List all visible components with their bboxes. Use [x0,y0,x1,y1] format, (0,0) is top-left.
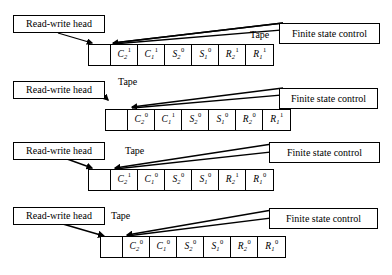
symbol-superscript: 0 [252,111,255,118]
tape-configuration-row: Read-write head Tape Finite state contro… [0,200,392,275]
tape-strip-row-3: C21C10S20S10R21R10 [88,169,274,191]
symbol-superscript: 0 [263,171,266,178]
symbol-base: C [118,49,124,59]
symbol-subscript: 1 [151,53,154,60]
symbol-subscript: 1 [276,118,279,125]
tape-cell-symbol: S20 [172,50,183,60]
tape-cell: C21 [111,170,138,190]
tape-strip-row-2: C20C11S20S10R20R11 [105,109,291,131]
symbol-superscript: 0 [208,171,211,178]
symbol-superscript: 0 [181,171,184,178]
symbol-subscript: 1 [151,178,154,185]
read-write-head-box-row-4: Read-write head [13,207,105,225]
read-write-head-label: Read-write head [26,85,92,95]
symbol-superscript: 0 [193,238,196,245]
symbol-superscript: 1 [280,111,283,118]
symbol-subscript: 1 [259,178,262,185]
symbol-subscript: 2 [136,245,139,252]
symbol-superscript: 0 [275,238,278,245]
tape-cell-symbol: R10 [265,242,277,252]
tape-label-row-4: Tape [111,211,130,221]
symbol-superscript: 0 [181,46,184,53]
turing-tape-figure: Read-write head Tape Finite state contro… [0,0,392,275]
symbol-base: C [162,114,168,124]
tape-cell-blank [101,237,123,257]
tape-cell: R21 [219,45,246,65]
symbol-superscript: 0 [167,238,170,245]
tape-cell-symbol: R11 [253,50,265,60]
tape-cell: C11 [138,45,165,65]
tape-cell-symbol: C20 [135,115,148,125]
symbol-superscript: 1 [172,111,175,118]
tape-cell-symbol: S20 [172,175,183,185]
tape-cell: C11 [155,110,182,130]
symbol-subscript: 2 [194,118,197,125]
read-write-head-label: Read-write head [26,19,92,29]
tape-strip-row-4: C20C10S20S10R20R10 [100,236,286,258]
tape-cell: R20 [236,110,263,130]
symbol-superscript: 0 [145,111,148,118]
tape-cell: R20 [231,237,258,257]
tape-cell: C20 [123,237,150,257]
symbol-superscript: 0 [140,238,143,245]
tape-cell: S20 [177,237,204,257]
tape-configuration-row: Read-write head Tape Finite state contro… [0,0,392,70]
tape-label-row-2: Tape [118,77,137,87]
symbol-superscript: 1 [235,46,238,53]
tape-label-row-3: Tape [125,146,144,156]
tape-cell-symbol: C20 [130,242,143,252]
symbol-superscript: 1 [128,171,131,178]
symbol-subscript: 1 [221,118,224,125]
read-write-head-box-row-3: Read-write head [13,142,105,160]
symbol-base: C [145,49,151,59]
symbol-superscript: 0 [208,46,211,53]
tape-cell-blank [106,110,128,130]
tape-cell-symbol: C21 [118,50,131,60]
tape-cell: S20 [165,45,192,65]
finite-state-control-box-row-4: Finite state control [269,208,378,229]
tape-cell-symbol: R20 [238,242,250,252]
symbol-base: C [145,174,151,184]
tape-cell: S20 [182,110,209,130]
tape-cell-symbol: S10 [216,115,227,125]
symbol-subscript: 2 [232,53,235,60]
tape-cell-symbol: C11 [145,50,158,60]
tape-cell: S20 [165,170,192,190]
symbol-subscript: 2 [244,245,247,252]
tape-cell: R21 [219,170,246,190]
tape-cell-symbol: C10 [157,242,170,252]
tape-cell-symbol: C11 [162,115,175,125]
tape-cell: R11 [246,45,273,65]
tape-cell: C10 [150,237,177,257]
symbol-base: C [118,174,124,184]
tape-cell-symbol: S10 [199,175,210,185]
symbol-subscript: 2 [177,53,180,60]
tape-cell-symbol: S20 [184,242,195,252]
tape-cell-symbol: S20 [189,115,200,125]
read-write-head-label: Read-write head [26,211,92,221]
symbol-subscript: 2 [124,53,127,60]
finite-state-control-label: Finite state control [292,29,367,39]
tape-cell-symbol: R21 [226,50,238,60]
read-write-head-label: Read-write head [26,146,92,156]
tape-cell: C10 [138,170,165,190]
tape-cell: C21 [111,45,138,65]
symbol-superscript: 1 [128,46,131,53]
symbol-base: R [226,174,232,184]
symbol-superscript: 0 [247,238,250,245]
tape-cell-symbol: R21 [226,175,238,185]
symbol-subscript: 1 [168,118,171,125]
tape-cell-symbol: S10 [211,242,222,252]
tape-cell-symbol: R10 [253,175,265,185]
tape-cell: C20 [128,110,155,130]
symbol-base: C [130,241,136,251]
read-write-head-box-row-2: Read-write head [13,81,105,99]
symbol-superscript: 1 [155,46,158,53]
symbol-subscript: 1 [204,178,207,185]
symbol-subscript: 1 [259,53,262,60]
finite-state-control-box-row-3: Finite state control [269,142,380,163]
tape-cell: S10 [192,45,219,65]
tape-cell-symbol: S10 [199,50,210,60]
tape-cell: R11 [263,110,290,130]
tape-cell: R10 [258,237,285,257]
